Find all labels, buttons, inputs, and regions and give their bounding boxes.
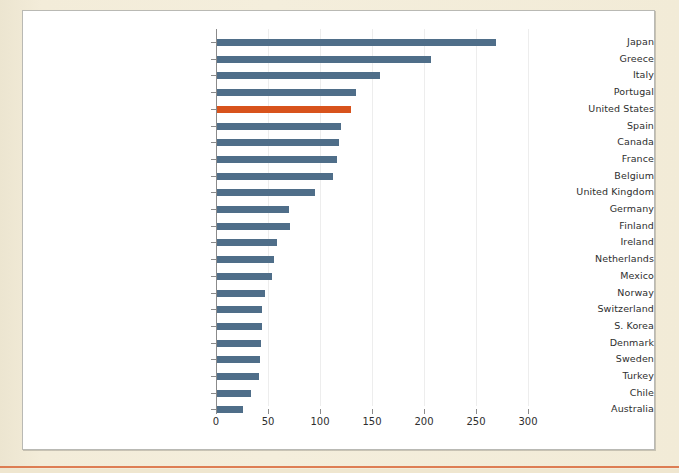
x-tick-mark-50 xyxy=(268,409,269,414)
y-tick-mark xyxy=(211,209,216,210)
category-label-turkey: Turkey xyxy=(468,371,654,381)
x-tick-mark-300 xyxy=(528,409,529,414)
bar-germany[interactable] xyxy=(217,206,289,213)
bar-france[interactable] xyxy=(217,156,337,163)
y-tick-mark xyxy=(211,75,216,76)
gridline-150 xyxy=(372,29,373,406)
bar-turkey[interactable] xyxy=(217,373,259,380)
gridline-300 xyxy=(528,29,529,406)
y-tick-mark xyxy=(211,92,216,93)
category-label-japan: Japan xyxy=(468,37,654,47)
gridline-50 xyxy=(268,29,269,406)
category-label-denmark: Denmark xyxy=(468,338,654,348)
gridline-250 xyxy=(476,29,477,406)
x-tick-mark-0 xyxy=(216,409,217,414)
bar-switzerland[interactable] xyxy=(217,306,262,313)
x-tick-label-50: 50 xyxy=(248,416,288,428)
chart-panel: JapanGreeceItalyPortugalUnited StatesSpa… xyxy=(22,10,655,450)
bar-canada[interactable] xyxy=(217,139,339,146)
bar-denmark[interactable] xyxy=(217,340,261,347)
category-label-s-korea: S. Korea xyxy=(468,321,654,331)
category-label-chile: Chile xyxy=(468,388,654,398)
category-label-finland: Finland xyxy=(468,221,654,231)
bar-greece[interactable] xyxy=(217,56,431,63)
gridline-200 xyxy=(424,29,425,406)
category-label-united-kingdom: United Kingdom xyxy=(468,187,654,197)
y-tick-mark xyxy=(211,142,216,143)
y-tick-mark xyxy=(211,259,216,260)
category-label-belgium: Belgium xyxy=(468,171,654,181)
category-label-netherlands: Netherlands xyxy=(468,254,654,264)
bar-netherlands[interactable] xyxy=(217,256,274,263)
bar-sweden[interactable] xyxy=(217,356,260,363)
bar-united-kingdom[interactable] xyxy=(217,189,315,196)
y-tick-mark xyxy=(211,276,216,277)
bar-italy[interactable] xyxy=(217,72,380,79)
plot-area: JapanGreeceItalyPortugalUnited StatesSpa… xyxy=(23,11,654,449)
page-bottom-rule xyxy=(0,466,679,468)
bar-belgium[interactable] xyxy=(217,173,333,180)
bar-s-korea[interactable] xyxy=(217,323,262,330)
y-tick-mark xyxy=(211,309,216,310)
y-tick-mark xyxy=(211,376,216,377)
y-tick-mark xyxy=(211,59,216,60)
bar-mexico[interactable] xyxy=(217,273,272,280)
category-label-switzerland: Switzerland xyxy=(468,304,654,314)
y-tick-mark xyxy=(211,293,216,294)
bar-australia[interactable] xyxy=(217,406,243,413)
bar-portugal[interactable] xyxy=(217,89,356,96)
category-label-spain: Spain xyxy=(468,121,654,131)
x-tick-mark-250 xyxy=(476,409,477,414)
category-label-italy: Italy xyxy=(468,70,654,80)
gridline-100 xyxy=(320,29,321,406)
bar-chile[interactable] xyxy=(217,390,251,397)
bar-japan[interactable] xyxy=(217,39,496,46)
category-label-germany: Germany xyxy=(468,204,654,214)
y-tick-mark xyxy=(211,159,216,160)
category-label-united-states: United States xyxy=(468,104,654,114)
y-axis-line xyxy=(216,29,217,409)
x-tick-label-100: 100 xyxy=(300,416,340,428)
page-bottom-margin xyxy=(0,469,679,473)
y-tick-mark xyxy=(211,326,216,327)
x-tick-label-250: 250 xyxy=(456,416,496,428)
category-label-mexico: Mexico xyxy=(468,271,654,281)
y-tick-mark xyxy=(211,126,216,127)
x-tick-label-300: 300 xyxy=(508,416,548,428)
y-tick-mark xyxy=(211,192,216,193)
category-label-portugal: Portugal xyxy=(468,87,654,97)
bar-norway[interactable] xyxy=(217,290,265,297)
y-tick-mark xyxy=(211,359,216,360)
bar-finland[interactable] xyxy=(217,223,290,230)
category-label-france: France xyxy=(468,154,654,164)
bar-ireland[interactable] xyxy=(217,239,277,246)
x-tick-mark-200 xyxy=(424,409,425,414)
category-label-canada: Canada xyxy=(468,137,654,147)
category-label-norway: Norway xyxy=(468,288,654,298)
category-label-greece: Greece xyxy=(468,54,654,64)
x-tick-label-200: 200 xyxy=(404,416,444,428)
y-tick-mark xyxy=(211,242,216,243)
x-tick-label-150: 150 xyxy=(352,416,392,428)
category-label-ireland: Ireland xyxy=(468,237,654,247)
y-tick-mark xyxy=(211,42,216,43)
y-tick-mark xyxy=(211,393,216,394)
y-tick-mark xyxy=(211,226,216,227)
bar-united-states[interactable] xyxy=(217,106,351,113)
x-tick-mark-150 xyxy=(372,409,373,414)
y-tick-mark xyxy=(211,343,216,344)
category-label-sweden: Sweden xyxy=(468,354,654,364)
bar-spain[interactable] xyxy=(217,123,341,130)
y-tick-mark xyxy=(211,109,216,110)
category-label-australia: Australia xyxy=(468,404,654,414)
x-tick-mark-100 xyxy=(320,409,321,414)
x-tick-label-0: 0 xyxy=(196,416,236,428)
y-tick-mark xyxy=(211,176,216,177)
